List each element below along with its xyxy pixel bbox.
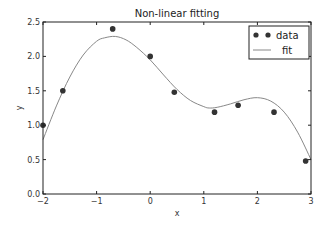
y-tick-label: 1.0 [27, 121, 40, 130]
data-point [212, 109, 218, 115]
y-tick-label: 2.0 [27, 52, 40, 61]
x-tick-label: 0 [148, 197, 153, 206]
data-point [110, 26, 116, 32]
data-point [303, 158, 309, 164]
chart-title: Non-linear fitting [135, 8, 220, 19]
y-tick-label: 0.0 [27, 190, 40, 199]
y-tick-label: 0.5 [27, 156, 40, 165]
x-tick-label: −1 [91, 197, 103, 206]
x-tick-label: 2 [255, 197, 260, 206]
x-axis-label: x [175, 209, 180, 218]
legend: data fit [249, 26, 309, 59]
y-tick-label: 2.5 [27, 18, 40, 27]
data-point [271, 109, 277, 115]
x-tick-label: 3 [308, 197, 313, 206]
data-point [147, 54, 153, 60]
y-axis-label: y [15, 105, 24, 110]
legend-data-marker-icon [265, 32, 270, 37]
data-point [235, 102, 241, 108]
x-tick-label: 1 [201, 197, 206, 206]
legend-label-data: data [276, 30, 299, 41]
chart: Non-linear fitting −2−10123 0.00.51.01.5… [0, 0, 328, 227]
legend-label-fit: fit [282, 45, 292, 56]
y-tick-label: 1.5 [27, 87, 40, 96]
data-point [60, 88, 66, 94]
data-point [172, 89, 178, 95]
legend-data-marker-icon [253, 32, 258, 37]
